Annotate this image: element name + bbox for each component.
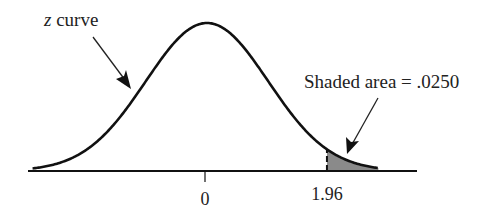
shaded-label-arrow: [350, 98, 378, 148]
curve-label: z curve: [43, 9, 98, 30]
arrowhead-icon: [116, 70, 131, 89]
arrowhead-icon: [346, 137, 359, 154]
tick-label-zero: 0: [201, 189, 210, 209]
shaded-area-annotation: Shaded area = .0250: [304, 71, 459, 92]
curve-label-arrow: [93, 37, 125, 80]
normal-curve: [33, 23, 378, 168]
z-curve-chart: z curve Shaded area = .0250 0 1.96: [0, 0, 494, 216]
tick-label-critical: 1.96: [311, 184, 343, 204]
